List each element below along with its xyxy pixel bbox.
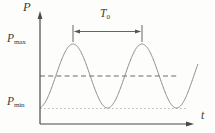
period-arrow-left-head-icon xyxy=(74,30,80,34)
y-axis-label: P xyxy=(23,1,31,14)
p-min-label: Pmin xyxy=(7,96,24,108)
y-axis-arrowhead-icon xyxy=(38,11,43,19)
x-axis-arrowhead-icon xyxy=(186,122,194,127)
x-axis-label: t xyxy=(201,110,204,122)
pressure-time-diagram: P Pmax Pmin T0 t xyxy=(0,0,215,133)
p-max-label: Pmax xyxy=(7,33,25,45)
period-label: T0 xyxy=(100,8,110,20)
period-arrow-right-head-icon xyxy=(135,30,141,34)
